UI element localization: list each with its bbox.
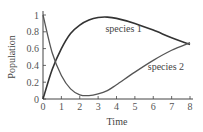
x-tick-label: 7 — [169, 101, 174, 112]
y-tick-label: 0.2 — [27, 77, 40, 88]
series-label-2: species 2 — [148, 61, 184, 72]
x-tick-label: 4 — [114, 101, 119, 112]
y-tick-label: 1 — [34, 10, 39, 21]
x-tick-label: 6 — [151, 101, 156, 112]
population-chart: 01234567800.20.40.60.81 species 1species… — [0, 0, 203, 132]
x-axis-label: Time — [107, 116, 128, 127]
y-tick-label: 0.4 — [27, 60, 40, 71]
x-tick-label: 8 — [188, 101, 193, 112]
y-tick-label: 0.6 — [27, 43, 40, 54]
y-axis-label: Population — [6, 35, 17, 78]
x-tick-label: 5 — [132, 101, 137, 112]
x-tick-label: 0 — [41, 101, 46, 112]
x-tick-label: 3 — [96, 101, 101, 112]
annotations: species 1species 2 — [105, 23, 184, 72]
x-tick-label: 1 — [59, 101, 64, 112]
x-tick-label: 2 — [77, 101, 82, 112]
y-tick-label: 0.8 — [27, 26, 40, 37]
series-label-1: species 1 — [105, 23, 141, 34]
y-tick-label: 0 — [34, 94, 39, 105]
